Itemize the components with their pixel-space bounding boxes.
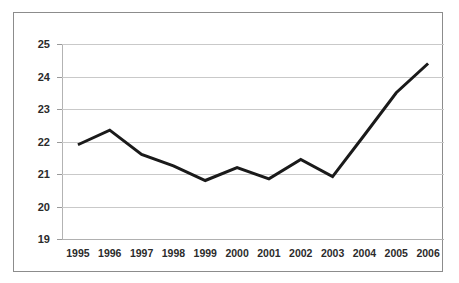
- x-axis-tick-label: 2003: [321, 247, 344, 259]
- plot-area: [62, 44, 444, 239]
- x-axis-tick-label: 2005: [385, 247, 408, 259]
- x-axis-tick-label: 2004: [353, 247, 376, 259]
- x-axis-tick-label: 1996: [98, 247, 121, 259]
- x-axis-tick-label: 2001: [257, 247, 280, 259]
- line-series-path: [78, 64, 428, 181]
- y-axis-tick-mark: [57, 77, 62, 78]
- y-axis-labels: 19202122232425: [14, 44, 54, 239]
- y-axis-tick-label: 23: [38, 103, 50, 115]
- y-axis-tick-label: 22: [38, 136, 50, 148]
- x-axis-tick-label: 2002: [289, 247, 312, 259]
- x-axis-tick-label: 1999: [194, 247, 217, 259]
- x-axis-tick-label: 2000: [225, 247, 248, 259]
- x-axis-tick-label: 1998: [162, 247, 185, 259]
- chart-frame: 19202122232425 1995199619971998199920002…: [13, 12, 443, 272]
- y-axis-tick-label: 24: [38, 71, 50, 83]
- y-axis-tick-mark: [57, 207, 62, 208]
- y-axis-tick-label: 20: [38, 201, 50, 213]
- x-axis-tick-label: 1997: [130, 247, 153, 259]
- gridline-19: [62, 239, 444, 240]
- y-axis-tick-mark: [57, 142, 62, 143]
- x-axis-tick-label: 1995: [66, 247, 89, 259]
- chart-figure: 19202122232425 1995199619971998199920002…: [0, 0, 459, 283]
- line-series-svg: [62, 44, 444, 239]
- y-axis-tick-mark: [57, 109, 62, 110]
- y-axis-tick-mark: [57, 239, 62, 240]
- y-axis-tick-mark: [57, 44, 62, 45]
- y-axis-tick-label: 25: [38, 38, 50, 50]
- y-axis-tick-label: 21: [38, 168, 50, 180]
- y-axis-tick-mark: [57, 174, 62, 175]
- y-axis-tick-label: 19: [38, 233, 50, 245]
- x-axis-tick-label: 2006: [416, 247, 439, 259]
- x-axis-labels: 1995199619971998199920002001200220032004…: [62, 247, 444, 263]
